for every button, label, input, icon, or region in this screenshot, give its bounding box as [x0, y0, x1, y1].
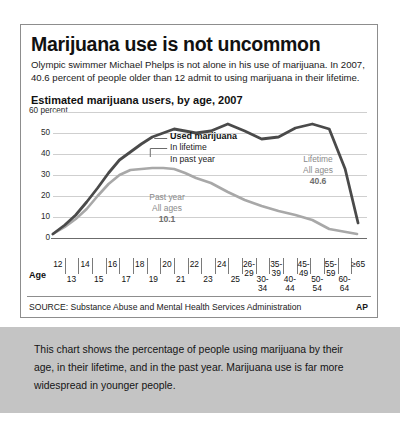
- x-tick-line: [310, 258, 311, 274]
- x-tick-line: [92, 258, 93, 274]
- caption-text: This chart shows the percentage of peopl…: [0, 327, 400, 395]
- x-tick-label: 23: [194, 275, 223, 284]
- x-tick-line: [119, 258, 120, 274]
- annotation-lifetime-line1: Lifetime: [287, 154, 349, 165]
- infographic-page: Marijuana use is not uncommon Olympic sw…: [0, 0, 400, 429]
- x-tick-label: 18: [125, 260, 154, 269]
- annotation-past-year-line2: All ages: [136, 203, 198, 214]
- x-tick-line: [338, 258, 339, 274]
- annotation-lifetime-value: 40.6: [310, 176, 327, 186]
- x-tick-label: 19: [139, 275, 168, 284]
- chart-title: Estimated marijuana users, by age, 2007: [31, 94, 367, 106]
- caption-band: This chart shows the percentage of peopl…: [0, 327, 400, 413]
- deck-text: Olympic swimmer Michael Phelps is not al…: [31, 59, 367, 85]
- source-divider: [27, 296, 371, 297]
- x-tick-line: [283, 258, 284, 274]
- annotation-lifetime-line2: All ages: [287, 165, 349, 176]
- x-tick-label: 15: [84, 275, 113, 284]
- headline: Marijuana use is not uncommon: [31, 34, 367, 54]
- x-tick-line: [228, 258, 229, 274]
- annotation-lifetime: Lifetime All ages 40.6: [287, 154, 349, 187]
- x-tick-label: 17: [112, 275, 141, 284]
- chart-graphic: Marijuana use is not uncommon Olympic sw…: [20, 24, 378, 318]
- annotation-past-year: Past year All ages 10.1: [136, 192, 198, 225]
- x-tick-line: [256, 258, 257, 274]
- annotation-past-year-line1: Past year: [136, 192, 198, 203]
- x-tick-label: 13: [57, 275, 86, 284]
- x-tick-line: [201, 258, 202, 274]
- x-tick-label: 22: [180, 260, 209, 269]
- x-tick-line: [174, 258, 175, 274]
- x-tick-label: 60-64: [330, 275, 359, 293]
- x-tick-line: [65, 258, 66, 274]
- x-tick-label: 16: [98, 260, 127, 269]
- x-tick-label: 14: [71, 260, 100, 269]
- x-tick-label: 20: [153, 260, 182, 269]
- credit-label: AP: [356, 302, 368, 312]
- x-axis-ticks: 121314151617181920212223242526-2930-3435…: [51, 258, 367, 300]
- x-tick-label: 21: [166, 275, 195, 284]
- plot-area: 60 percent 50 40 30 20 10 0 Used marijua…: [29, 110, 369, 258]
- source-text: SOURCE: Substance Abuse and Mental Healt…: [29, 302, 301, 312]
- x-axis-title: Age: [29, 270, 46, 280]
- x-tick-label: 24: [207, 260, 236, 269]
- x-tick-label: ≥65: [344, 260, 373, 269]
- x-axis: Age 121314151617181920212223242526-2930-…: [29, 258, 369, 300]
- x-tick-label: 12: [44, 260, 73, 269]
- x-tick-line: [147, 258, 148, 274]
- annotation-past-year-value: 10.1: [159, 214, 176, 224]
